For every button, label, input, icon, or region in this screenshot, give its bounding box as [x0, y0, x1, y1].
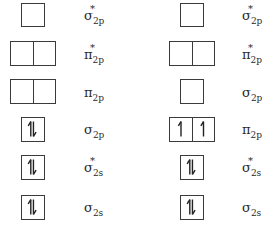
- label-left-sigma-star-2s: σ*2s: [84, 161, 103, 174]
- star-superscript: *: [248, 43, 253, 53]
- label-left-sigma-2s: σ2s: [84, 201, 103, 214]
- orbital-subscript: 2p: [251, 55, 263, 65]
- orbital-subscript: 2p: [93, 130, 105, 140]
- orbital-box-left-sigma-star-2p: [21, 3, 45, 27]
- orbital-subscript: 2s: [93, 208, 103, 218]
- orbital-subscript: 2p: [251, 130, 263, 140]
- electron-up-icon: [193, 118, 214, 140]
- orbital-symbol: σ: [242, 85, 251, 100]
- label-left-sigma-2p: σ2p: [84, 123, 104, 136]
- electron-pair-icon: [22, 196, 44, 218]
- orbital-cell: [192, 42, 214, 65]
- orbital-subscript: 2p: [251, 16, 263, 26]
- label-right-sigma-star-2s: σ*2s: [242, 161, 261, 174]
- orbital-subscript: 2p: [93, 55, 105, 65]
- orbital-symbol: π: [242, 122, 251, 137]
- orbital-subscript: 2s: [251, 168, 261, 178]
- orbital-cell: [170, 42, 192, 65]
- orbital-cell: [33, 42, 55, 65]
- label-right-pi-2p: π2p: [242, 123, 262, 136]
- label-right-sigma-2p: σ2p: [242, 86, 262, 99]
- orbital-box-left-sigma-star-2s: [21, 155, 45, 180]
- orbital-symbol: σ: [242, 200, 251, 215]
- orbital-box-right-sigma-2s: [180, 195, 204, 220]
- label-right-pi-star-2p: π*2p: [242, 48, 262, 61]
- orbital-cell: [170, 118, 192, 141]
- star-superscript: *: [90, 4, 95, 14]
- electron-up-icon: [170, 118, 192, 140]
- orbital-subscript: 2p: [93, 16, 105, 26]
- orbital-box-right-sigma-star-2s: [180, 155, 204, 180]
- orbital-cell: [11, 42, 33, 65]
- label-right-sigma-2s: σ2s: [242, 201, 261, 214]
- star-superscript: *: [90, 43, 95, 53]
- orbital-box-right-sigma-star-2p: [180, 3, 204, 27]
- star-superscript: *: [248, 156, 253, 166]
- star-superscript: *: [90, 156, 95, 166]
- orbital-box-left-pi-2p: [10, 79, 56, 104]
- orbital-box-left-sigma-2p: [21, 117, 45, 142]
- electron-pair-icon: [22, 118, 44, 140]
- orbital-box-right-pi-2p: [169, 117, 215, 142]
- electron-pair-icon: [181, 156, 203, 178]
- electron-pair-icon: [181, 196, 203, 218]
- orbital-box-right-sigma-2p: [180, 79, 204, 104]
- orbital-cell: [11, 80, 33, 103]
- electron-pair-icon: [22, 156, 44, 178]
- label-left-pi-2p: π2p: [84, 86, 104, 99]
- orbital-cell: [33, 80, 55, 103]
- label-right-sigma-star-2p: σ*2p: [242, 9, 262, 22]
- label-left-sigma-star-2p: σ*2p: [84, 9, 104, 22]
- orbital-cell: [192, 118, 214, 141]
- orbital-subscript: 2s: [93, 168, 103, 178]
- star-superscript: *: [248, 4, 253, 14]
- orbital-box-left-sigma-2s: [21, 195, 45, 220]
- orbital-symbol: σ: [84, 200, 93, 215]
- orbital-symbol: π: [84, 85, 93, 100]
- label-left-pi-star-2p: π*2p: [84, 48, 104, 61]
- orbital-box-left-pi-star-2p: [10, 41, 56, 66]
- orbital-box-right-pi-star-2p: [169, 41, 215, 66]
- orbital-symbol: σ: [84, 122, 93, 137]
- orbital-subscript: 2p: [251, 93, 263, 103]
- orbital-subscript: 2s: [251, 208, 261, 218]
- orbital-subscript: 2p: [93, 93, 105, 103]
